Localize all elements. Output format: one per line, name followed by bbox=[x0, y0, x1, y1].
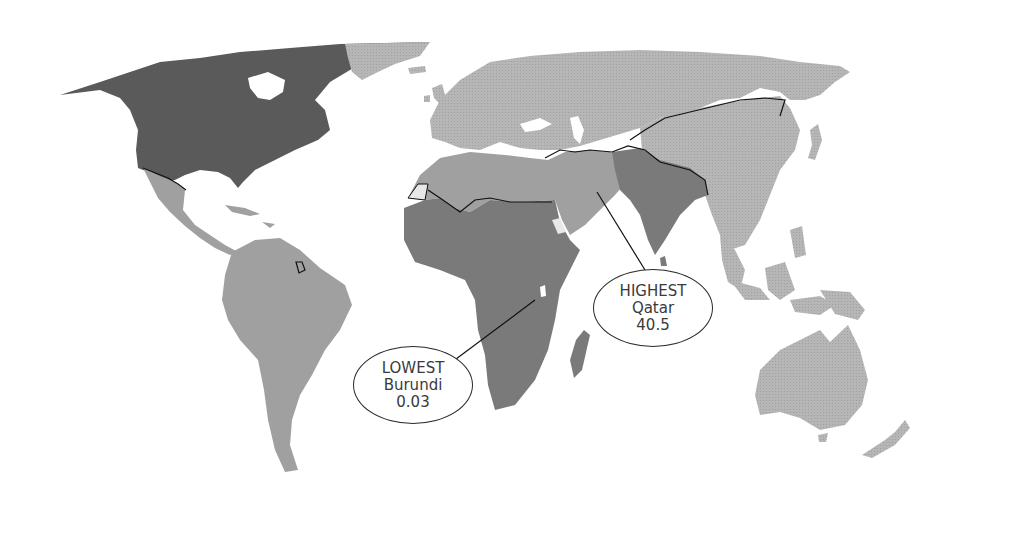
callout-lowest-value: 0.03 bbox=[396, 394, 429, 411]
callout-highest-value: 40.5 bbox=[636, 317, 669, 334]
region-japan bbox=[808, 124, 822, 160]
region-sri-lanka bbox=[660, 256, 667, 266]
callout-lowest-label: LOWEST bbox=[382, 360, 445, 377]
world-map bbox=[0, 0, 1024, 535]
lake-victoria bbox=[540, 285, 546, 297]
region-iceland bbox=[408, 66, 426, 74]
region-mexico-central-america bbox=[143, 168, 238, 255]
callout-highest-country: Qatar bbox=[632, 300, 674, 317]
region-australia bbox=[755, 325, 868, 430]
region-caribbean bbox=[225, 205, 275, 228]
region-greenland bbox=[345, 42, 430, 80]
region-tasmania bbox=[818, 433, 828, 442]
region-british-isles bbox=[424, 84, 446, 104]
region-new-zealand bbox=[862, 420, 910, 458]
region-madagascar bbox=[570, 330, 590, 378]
callout-lowest-country: Burundi bbox=[384, 377, 443, 394]
callout-highest-label: HIGHEST bbox=[620, 283, 687, 300]
region-south-america bbox=[222, 238, 352, 472]
callout-highest: HIGHEST Qatar 40.5 bbox=[593, 269, 713, 347]
region-western-sahara bbox=[408, 184, 428, 200]
callout-lowest: LOWEST Burundi 0.03 bbox=[353, 346, 473, 424]
